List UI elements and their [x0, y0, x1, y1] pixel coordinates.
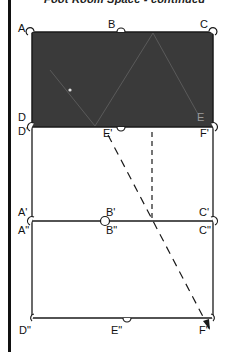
white-dot: [68, 88, 71, 91]
foot-room-diagram: A B C D E D' E' F' A' B' C' A" B" C" D" …: [0, 0, 230, 352]
frames: [32, 127, 213, 318]
diagonal-dashed-arrow: [108, 135, 210, 330]
label-C-double: C": [199, 224, 211, 236]
label-E-prime: E': [103, 127, 112, 139]
label-B-prime: B': [106, 206, 115, 218]
label-C: C: [200, 18, 208, 30]
label-A: A: [18, 22, 26, 34]
label-E: E: [197, 111, 204, 123]
label-D: D: [18, 111, 26, 123]
label-B-double: B": [106, 224, 117, 236]
label-A-prime: A': [18, 206, 27, 218]
label-F-prime: F': [200, 127, 209, 139]
upper-rect: [32, 32, 213, 127]
label-D-prime: D': [18, 125, 28, 137]
label-A-double: A": [18, 224, 29, 236]
label-C-prime: C': [199, 206, 209, 218]
label-B: B: [108, 18, 115, 30]
page-margin-bar: [8, 0, 11, 352]
label-E-double: E": [111, 324, 122, 336]
label-F-double: F": [199, 324, 210, 336]
label-D-double: D": [19, 324, 31, 336]
